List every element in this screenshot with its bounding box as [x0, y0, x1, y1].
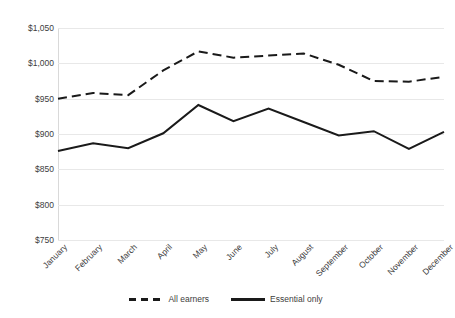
chart-legend: All earners Essential only — [0, 288, 452, 310]
series-line-essential-only — [58, 105, 444, 151]
series-container — [58, 28, 444, 240]
legend-swatch-dashed-icon — [129, 298, 163, 301]
y-axis-tick-label: $800 — [0, 200, 54, 210]
legend-item-essential-only: Essential only — [231, 294, 322, 304]
y-axis-tick-label: $1,000 — [0, 58, 54, 68]
legend-swatch-solid-icon — [231, 298, 265, 301]
series-line-all-earners — [58, 51, 444, 98]
y-axis-tick-label: $950 — [0, 94, 54, 104]
y-axis-tick-label: $1,050 — [0, 23, 54, 33]
y-axis-tick-label: $900 — [0, 129, 54, 139]
x-axis-tick-labels: JanuaryFebruaryMarchAprilMayJuneJulyAugu… — [58, 242, 444, 290]
gridline — [58, 240, 444, 241]
legend-label-all-earners: All earners — [168, 294, 209, 304]
plot-area — [58, 28, 444, 240]
legend-item-all-earners: All earners — [129, 294, 209, 304]
y-axis-tick-label: $850 — [0, 164, 54, 174]
y-axis-tick-label: $750 — [0, 235, 54, 245]
legend-label-essential-only: Essential only — [270, 294, 322, 304]
